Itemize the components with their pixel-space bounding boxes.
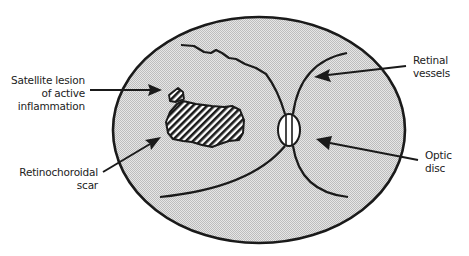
- retinochoroidal-scar: [166, 101, 244, 147]
- label-vessels-line2: vessels: [413, 67, 450, 80]
- optic-disc: [278, 114, 300, 146]
- label-satellite-line3: inflammation: [2, 100, 85, 113]
- fundus-outline: [113, 17, 405, 243]
- label-satellite-line1: Satellite lesion: [2, 74, 85, 87]
- label-scar-line1: Retinochoroidal: [2, 166, 98, 179]
- label-disc-line2: disc: [425, 162, 452, 175]
- label-disc-line1: Optic: [425, 149, 452, 162]
- label-satellite-lesion: Satellite lesion of active inflammation: [2, 74, 85, 113]
- label-vessels-line1: Retinal: [413, 54, 450, 67]
- label-satellite-line2: of active: [2, 87, 85, 100]
- label-retinal-vessels: Retinal vessels: [413, 54, 450, 80]
- label-retinochoroidal-scar: Retinochoroidal scar: [2, 166, 98, 192]
- fundus-diagram: [0, 0, 469, 256]
- label-optic-disc: Optic disc: [425, 149, 452, 175]
- label-scar-line2: scar: [2, 179, 98, 192]
